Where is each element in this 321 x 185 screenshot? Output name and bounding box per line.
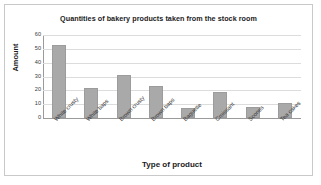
y-tick-label: 40 bbox=[27, 60, 41, 66]
y-tick-label: 50 bbox=[27, 46, 41, 52]
y-tick-label: 30 bbox=[27, 74, 41, 80]
y-axis-title: Amount bbox=[11, 30, 20, 86]
chart-frame: Quantities of bakery products taken from… bbox=[4, 4, 313, 176]
y-tick-label: 20 bbox=[27, 87, 41, 93]
gridline bbox=[43, 77, 301, 78]
y-tick-label: 0 bbox=[27, 115, 41, 121]
gridline bbox=[43, 35, 301, 36]
y-tick-label: 60 bbox=[27, 32, 41, 38]
y-tick-label: 10 bbox=[27, 101, 41, 107]
x-axis-title: Type of product bbox=[43, 160, 301, 169]
gridline bbox=[43, 90, 301, 91]
chart-title: Quantities of bakery products taken from… bbox=[5, 14, 312, 23]
gridline bbox=[43, 63, 301, 64]
gridline bbox=[43, 49, 301, 50]
y-axis-tick-labels: 0102030405060 bbox=[25, 35, 41, 118]
x-axis-tick-labels: White crustyWhite bapsBrown crustyBrown … bbox=[43, 118, 301, 163]
